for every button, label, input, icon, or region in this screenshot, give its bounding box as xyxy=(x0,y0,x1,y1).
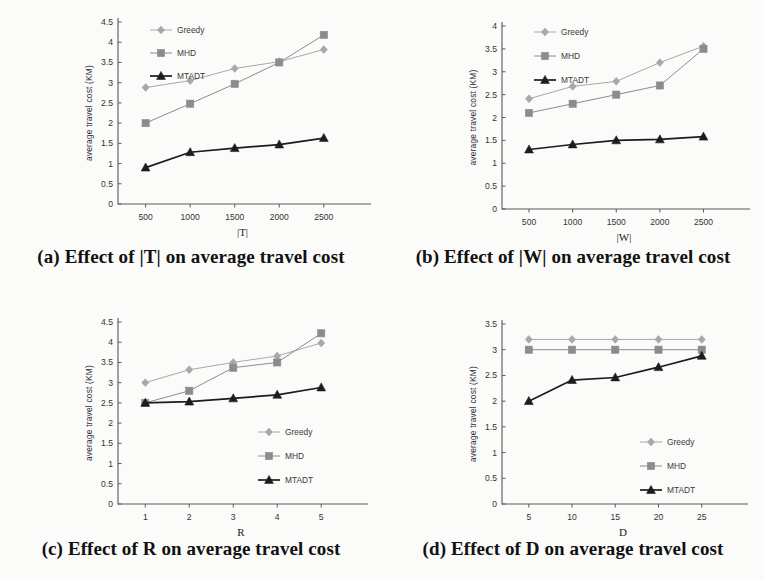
y-tick-label: 3.5 xyxy=(101,57,113,67)
x-axis-title: |W| xyxy=(617,231,632,243)
square-marker-icon xyxy=(568,346,575,353)
legend-label: MHD xyxy=(177,48,196,58)
legend-item-mtadt: MTADT xyxy=(258,475,313,485)
x-tick-label: 1 xyxy=(143,512,148,522)
caption-a: (a) Effect of |T| on average travel cost xyxy=(0,246,382,268)
square-marker-icon xyxy=(612,346,619,353)
square-marker-icon xyxy=(142,120,149,127)
y-tick-label: 1.5 xyxy=(485,135,497,145)
x-tick-label: 2000 xyxy=(650,217,669,227)
x-tick-label: 500 xyxy=(522,217,537,227)
x-tick-label: 15 xyxy=(610,512,620,522)
chart-c: 00.511.522.533.544.512345Raverage travel… xyxy=(0,304,382,544)
triangle-marker-icon xyxy=(317,383,326,391)
x-tick-label: 2 xyxy=(187,512,192,522)
caption-c: (c) Effect of R on average travel cost xyxy=(0,538,382,560)
square-marker-icon xyxy=(655,346,662,353)
square-marker-icon xyxy=(157,49,164,56)
chart-svg: 00.511.522.533.545001000150020002500|W|a… xyxy=(382,6,764,246)
diamond-marker-icon xyxy=(698,336,705,344)
legend-label: MHD xyxy=(561,51,580,61)
square-marker-icon xyxy=(541,52,548,59)
diamond-marker-icon xyxy=(612,336,619,344)
x-tick-label: 4 xyxy=(275,512,280,522)
x-tick-label: 10 xyxy=(567,512,577,522)
diamond-marker-icon xyxy=(265,428,272,436)
y-tick-label: 0.5 xyxy=(485,181,497,191)
y-tick-label: 2 xyxy=(492,396,497,406)
legend-item-mhd: MHD xyxy=(640,461,686,471)
y-tick-label: 4.5 xyxy=(101,317,113,327)
chart-svg: 00.511.522.533.5510152025Daverage travel… xyxy=(382,304,764,544)
square-marker-icon xyxy=(265,452,272,459)
square-marker-icon xyxy=(656,82,663,89)
legend-label: MTADT xyxy=(177,71,205,81)
y-tick-label: 2.5 xyxy=(485,370,497,380)
x-tick-label: 2500 xyxy=(694,217,713,227)
x-tick-label: 1500 xyxy=(607,217,626,227)
diamond-marker-icon xyxy=(656,59,663,67)
legend-item-greedy: Greedy xyxy=(150,25,205,35)
diamond-marker-icon xyxy=(186,366,193,374)
y-tick-label: 3 xyxy=(108,78,113,88)
chart-svg: 00.511.522.533.544.512345Raverage travel… xyxy=(0,304,382,544)
legend-item-mtadt: MTADT xyxy=(534,75,589,85)
y-tick-label: 3 xyxy=(492,345,497,355)
y-tick-label: 1.5 xyxy=(101,138,113,148)
y-axis-title: average travel cost (KM) xyxy=(84,65,94,161)
square-marker-icon xyxy=(647,462,654,469)
y-tick-label: 3.5 xyxy=(485,44,497,54)
y-tick-label: 2 xyxy=(492,113,497,123)
square-marker-icon xyxy=(320,31,327,38)
chart-a: 00.511.522.533.544.55001000150020002500|… xyxy=(0,6,382,246)
x-tick-label: 1500 xyxy=(225,212,244,222)
legend: GreedyMHDMTADT xyxy=(150,25,205,81)
square-marker-icon xyxy=(187,100,194,107)
y-tick-label: 1 xyxy=(108,459,113,469)
x-tick-label: 25 xyxy=(697,512,707,522)
panel-a: 00.511.522.533.544.55001000150020002500|… xyxy=(0,0,382,290)
panel-c: 00.511.522.533.544.512345Raverage travel… xyxy=(0,290,382,580)
series-mtadt xyxy=(141,383,326,406)
series-greedy xyxy=(142,339,325,386)
panel-d: 00.511.522.533.5510152025Daverage travel… xyxy=(382,290,764,580)
diamond-marker-icon xyxy=(231,65,238,73)
diamond-marker-icon xyxy=(525,95,532,103)
diamond-marker-icon xyxy=(142,84,149,92)
legend-label: MTADT xyxy=(285,475,313,485)
legend-label: Greedy xyxy=(285,427,313,437)
series-mtadt xyxy=(524,351,706,404)
y-tick-label: 4 xyxy=(108,37,113,47)
square-marker-icon xyxy=(569,100,576,107)
diamond-marker-icon xyxy=(647,438,654,446)
square-marker-icon xyxy=(613,91,620,98)
diamond-marker-icon xyxy=(318,339,325,347)
x-tick-label: 2000 xyxy=(270,212,289,222)
legend-label: MTADT xyxy=(561,75,589,85)
square-marker-icon xyxy=(186,387,193,394)
y-tick-label: 3 xyxy=(108,378,113,388)
square-marker-icon xyxy=(276,59,283,66)
y-tick-label: 2 xyxy=(108,118,113,128)
axis-lines xyxy=(502,320,748,504)
chart-svg: 00.511.522.533.544.55001000150020002500|… xyxy=(0,6,382,246)
y-tick-label: 2 xyxy=(108,418,113,428)
y-tick-label: 0 xyxy=(492,204,497,214)
legend-item-greedy: Greedy xyxy=(640,437,695,447)
series-mtadt xyxy=(141,133,328,171)
diamond-marker-icon xyxy=(157,26,164,34)
legend-item-greedy: Greedy xyxy=(534,27,589,37)
x-tick-label: 1000 xyxy=(181,212,200,222)
x-tick-label: 2500 xyxy=(314,212,333,222)
series-mhd xyxy=(142,31,327,126)
legend-item-mhd: MHD xyxy=(150,48,196,58)
x-tick-label: 5 xyxy=(526,512,531,522)
y-tick-label: 4 xyxy=(108,337,113,347)
diamond-marker-icon xyxy=(568,336,575,344)
legend-label: Greedy xyxy=(561,27,589,37)
y-tick-label: 1.5 xyxy=(485,422,497,432)
legend-label: Greedy xyxy=(667,437,695,447)
legend-label: MTADT xyxy=(667,485,695,495)
square-marker-icon xyxy=(318,330,325,337)
diamond-marker-icon xyxy=(142,379,149,387)
